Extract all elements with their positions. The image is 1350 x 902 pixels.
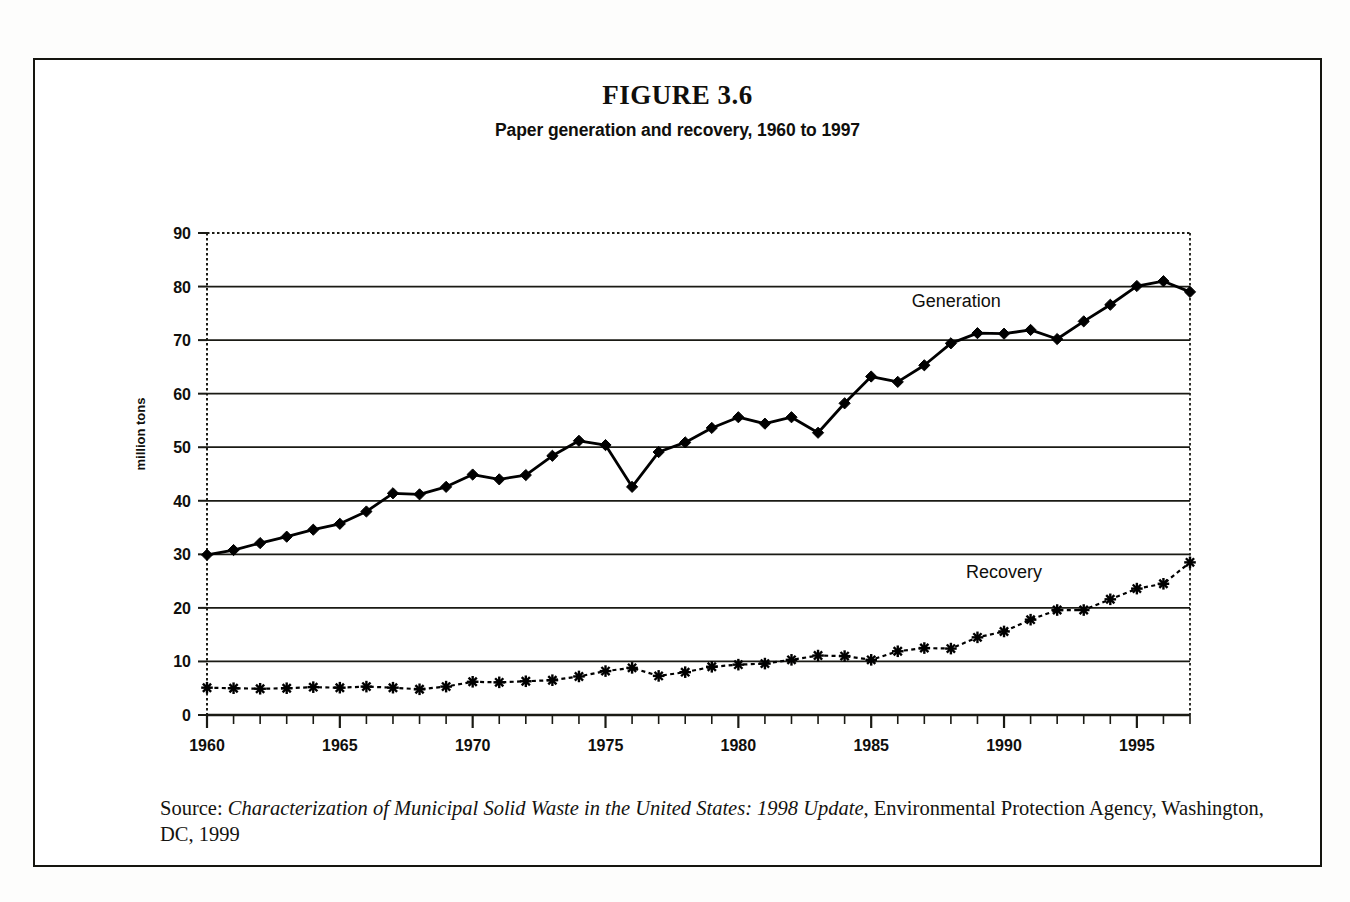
data-point-marker xyxy=(281,531,292,542)
figure-frame: FIGURE 3.6 Paper generation and recovery… xyxy=(33,58,1322,867)
data-point-marker xyxy=(573,435,584,446)
data-point-marker xyxy=(201,682,213,694)
data-point-marker xyxy=(334,518,345,529)
data-point-marker xyxy=(467,469,478,480)
data-point-marker xyxy=(1025,324,1036,335)
series-line-recovery xyxy=(207,562,1190,689)
data-point-marker xyxy=(919,642,931,654)
data-point-marker xyxy=(865,654,877,666)
y-axis-tick-label: 90 xyxy=(173,225,191,242)
data-point-marker xyxy=(626,662,638,674)
figure-title: FIGURE 3.6 xyxy=(35,80,1320,111)
y-axis-tick-label: 0 xyxy=(182,707,191,724)
data-point-marker xyxy=(759,658,771,670)
source-prefix: Source: xyxy=(160,797,228,819)
y-axis-tick-label: 40 xyxy=(173,493,191,510)
data-point-marker xyxy=(1078,604,1090,616)
data-point-marker xyxy=(414,683,426,695)
data-point-marker xyxy=(308,524,319,535)
series-annotation-recovery: Recovery xyxy=(966,562,1042,582)
data-point-marker xyxy=(1158,276,1169,287)
data-point-marker xyxy=(228,682,240,694)
data-point-marker xyxy=(307,681,319,693)
data-point-marker xyxy=(414,489,425,500)
data-point-marker xyxy=(706,661,718,673)
series-line-generation xyxy=(207,281,1190,555)
data-point-marker xyxy=(1158,578,1170,590)
x-axis-tick-label: 1980 xyxy=(721,737,757,754)
series-annotation-generation: Generation xyxy=(912,291,1001,311)
data-point-marker xyxy=(255,537,266,548)
y-axis-tick-label: 60 xyxy=(173,386,191,403)
data-point-marker xyxy=(998,626,1010,638)
data-point-marker xyxy=(254,683,266,695)
y-axis-tick-label: 70 xyxy=(173,332,191,349)
data-point-marker xyxy=(759,418,770,429)
data-point-marker xyxy=(680,437,691,448)
data-point-marker xyxy=(892,645,904,657)
data-point-marker xyxy=(945,643,957,655)
source-note: Source: Characterization of Municipal So… xyxy=(160,795,1280,847)
data-point-marker xyxy=(733,659,745,671)
x-axis-tick-label: 1960 xyxy=(189,737,225,754)
x-axis-tick-label: 1995 xyxy=(1119,737,1155,754)
data-point-marker xyxy=(441,481,452,492)
data-point-marker xyxy=(600,665,612,677)
y-axis-tick-label: 30 xyxy=(173,546,191,563)
chart-area: 0102030405060708090million tons196019651… xyxy=(35,155,1320,755)
data-point-marker xyxy=(786,412,797,423)
data-point-marker xyxy=(733,412,744,423)
data-point-marker xyxy=(1025,614,1037,626)
data-point-marker xyxy=(281,682,293,694)
data-point-marker xyxy=(1051,604,1063,616)
figure-subtitle: Paper generation and recovery, 1960 to 1… xyxy=(35,120,1320,141)
data-point-marker xyxy=(972,328,983,339)
y-axis-tick-label: 20 xyxy=(173,600,191,617)
data-point-marker xyxy=(1104,594,1116,606)
data-point-marker xyxy=(839,650,851,662)
line-chart: 0102030405060708090million tons196019651… xyxy=(35,155,1320,755)
data-point-marker xyxy=(201,549,212,560)
data-point-marker xyxy=(1131,583,1143,595)
data-point-marker xyxy=(998,328,1009,339)
data-point-marker xyxy=(573,671,585,683)
data-point-marker xyxy=(706,422,717,433)
data-point-marker xyxy=(786,654,798,666)
data-point-marker xyxy=(387,682,399,694)
y-axis-tick-label: 10 xyxy=(173,653,191,670)
x-axis-tick-label: 1965 xyxy=(322,737,358,754)
y-axis-tick-label: 50 xyxy=(173,439,191,456)
data-point-marker xyxy=(494,474,505,485)
y-axis-tick-label: 80 xyxy=(173,279,191,296)
source-title: Characterization of Municipal Solid Wast… xyxy=(228,797,864,819)
data-point-marker xyxy=(440,681,452,693)
data-point-marker xyxy=(520,675,532,687)
y-axis-title: million tons xyxy=(133,398,148,471)
data-point-marker xyxy=(653,670,665,682)
data-point-marker xyxy=(361,681,373,693)
data-point-marker xyxy=(467,676,479,688)
data-point-marker xyxy=(972,632,984,644)
x-axis-tick-label: 1975 xyxy=(588,737,624,754)
data-point-marker xyxy=(334,682,346,694)
data-point-marker xyxy=(493,677,505,689)
data-point-marker xyxy=(1184,557,1196,569)
data-point-marker xyxy=(812,650,824,662)
data-point-marker xyxy=(1184,286,1195,297)
x-axis-tick-label: 1990 xyxy=(986,737,1022,754)
data-point-marker xyxy=(547,674,559,686)
data-point-marker xyxy=(679,666,691,678)
x-axis-tick-label: 1970 xyxy=(455,737,491,754)
x-axis-tick-label: 1985 xyxy=(853,737,889,754)
